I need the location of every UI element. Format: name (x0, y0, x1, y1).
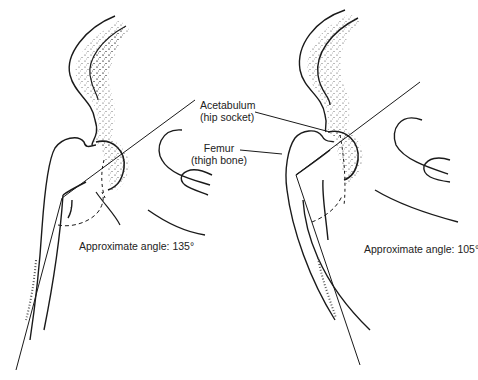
acetabulum-leader (255, 112, 330, 132)
right-angle-label: Approximate angle: 105° (364, 244, 478, 256)
left-angle-label: Approximate angle: 135° (79, 241, 194, 253)
acetabulum-label: Acetabulum (hip socket) (200, 100, 255, 123)
hip-angle-diagram: Acetabulum (hip socket) Femur (thigh bon… (0, 0, 478, 380)
right-hip-drawing (286, 10, 458, 365)
acetabulum-desc: (hip socket) (200, 112, 255, 124)
diagram-drawing (0, 0, 478, 380)
femur-label: Femur (thigh bone) (191, 143, 247, 166)
femur-name: Femur (191, 143, 247, 155)
left-hip-drawing (16, 16, 212, 370)
acetabulum-name: Acetabulum (200, 100, 255, 112)
femur-desc: (thigh bone) (191, 155, 247, 167)
